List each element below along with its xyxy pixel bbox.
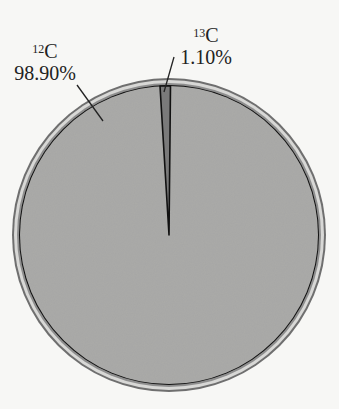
label-12C: 12C 98.90% [2,40,88,84]
mass-number: 12 [32,42,44,56]
percent-13C: 1.10% [176,46,236,68]
element-symbol: C [205,24,218,46]
label-13C: 13C 1.10% [176,24,236,68]
mass-number: 13 [193,26,205,40]
element-symbol: C [44,40,57,62]
percent-12C: 98.90% [2,62,88,84]
